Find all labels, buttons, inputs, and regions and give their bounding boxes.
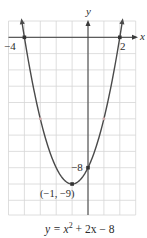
data-point xyxy=(86,166,90,170)
data-point xyxy=(102,117,105,120)
x-intercept-right-label: 2 xyxy=(120,40,126,52)
grid xyxy=(9,21,136,215)
x-axis-arrow-icon xyxy=(132,35,138,40)
data-point xyxy=(70,182,74,186)
data-point xyxy=(23,36,27,40)
vertex-label: (−1, −9) xyxy=(40,188,75,200)
x-intercept-left-label: −4 xyxy=(4,40,16,52)
data-point xyxy=(118,36,122,40)
x-axis-label: x xyxy=(139,30,145,42)
y-axis-label: y xyxy=(85,5,91,17)
equation-label: y = x2 + 2x − 8 xyxy=(44,221,115,236)
equation-lhs: y = x xyxy=(44,223,70,236)
data-point xyxy=(39,117,42,120)
parabola-graph: y x −4 2 −8 (−1, −9) y = x2 + 2x − 8 xyxy=(0,0,147,238)
equation-rhs: + 2x − 8 xyxy=(73,223,115,235)
y-intercept-label: −8 xyxy=(71,161,83,173)
